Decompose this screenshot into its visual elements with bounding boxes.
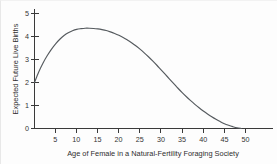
x-axis-title: Age of Female in a Natural-Fertility For…: [67, 149, 239, 158]
y-axis-title: Expected Future Live Births: [11, 23, 20, 114]
x-tick-label-15: 15: [94, 135, 102, 144]
y-tick-label-5: 5: [25, 9, 29, 18]
x-tick-label-30: 30: [157, 135, 165, 144]
y-axis-tick-labels: 5 4 3 2 1 0: [25, 9, 29, 133]
x-tick-label-45: 45: [220, 135, 228, 144]
x-tick-label-20: 20: [115, 135, 123, 144]
x-tick-label-25: 25: [136, 135, 144, 144]
x-tick-label-35: 35: [178, 135, 186, 144]
y-tick-label-2: 2: [25, 78, 29, 87]
x-tick-label-10: 10: [72, 135, 80, 144]
x-axis-tick-labels: 5 10 15 20 25 30 35 40 45 50: [53, 135, 249, 144]
y-tick-label-0: 0: [25, 124, 29, 133]
x-tick-label-50: 50: [242, 135, 250, 144]
x-axis-ticks: [55, 129, 245, 134]
chart-plot-area: 5 4 3 2 1 0 5 10 15 20 25 30 35: [1, 1, 277, 164]
x-tick-label-40: 40: [199, 135, 207, 144]
fertility-curve: [35, 28, 242, 128]
y-tick-label-4: 4: [25, 32, 29, 41]
x-tick-label-5: 5: [53, 135, 57, 144]
y-tick-label-1: 1: [25, 101, 29, 110]
chart-figure: 5 4 3 2 1 0 5 10 15 20 25 30 35: [0, 0, 277, 164]
y-tick-label-3: 3: [25, 55, 29, 64]
